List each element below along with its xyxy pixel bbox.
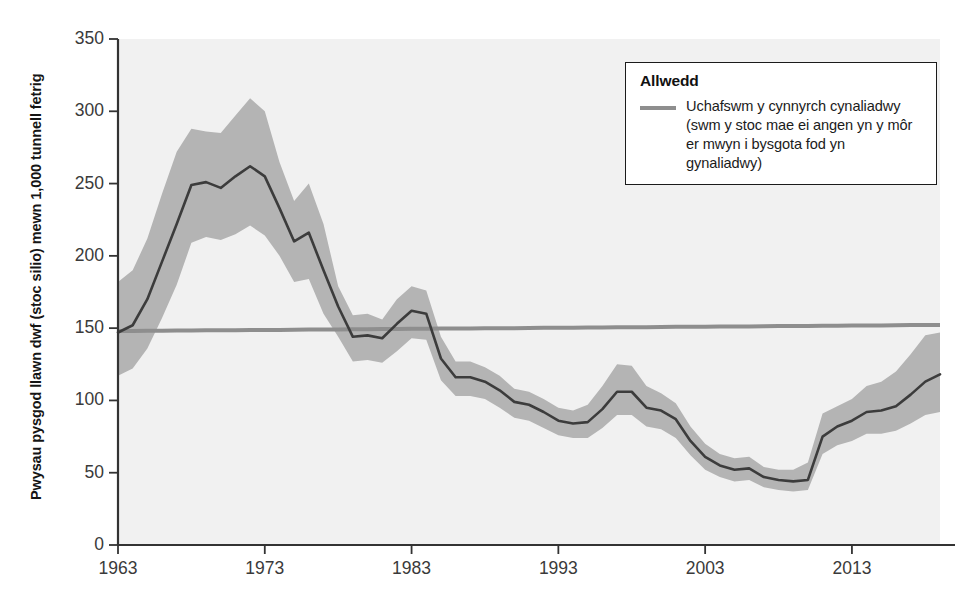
legend-entry-label: Uchafswm y cynnyrch cynaliadwy (swm y st…: [686, 97, 924, 173]
x-tick-label: 1973: [230, 558, 300, 579]
y-tick-label: 0: [58, 534, 104, 555]
legend-line-swatch-icon: [640, 106, 676, 110]
y-tick-label: 350: [58, 28, 104, 49]
y-tick-label: 250: [58, 173, 104, 194]
x-tick-label: 2013: [817, 558, 887, 579]
x-tick-label: 2003: [670, 558, 740, 579]
y-tick-label: 50: [58, 462, 104, 483]
x-tick-label: 1983: [377, 558, 447, 579]
chart-figure: Pwysau pysgod llawn dwf (stoc silio) mew…: [0, 0, 955, 596]
y-tick-label: 100: [58, 389, 104, 410]
x-tick-label: 1963: [83, 558, 153, 579]
chart-legend: Allwedd Uchafswm y cynnyrch cynaliadwy (…: [625, 62, 937, 185]
y-tick-label: 300: [58, 100, 104, 121]
x-tick-label: 1993: [523, 558, 593, 579]
legend-entry: Uchafswm y cynnyrch cynaliadwy (swm y st…: [640, 97, 924, 173]
legend-title: Allwedd: [640, 72, 924, 90]
y-tick-label: 200: [58, 245, 104, 266]
y-tick-label: 150: [58, 317, 104, 338]
